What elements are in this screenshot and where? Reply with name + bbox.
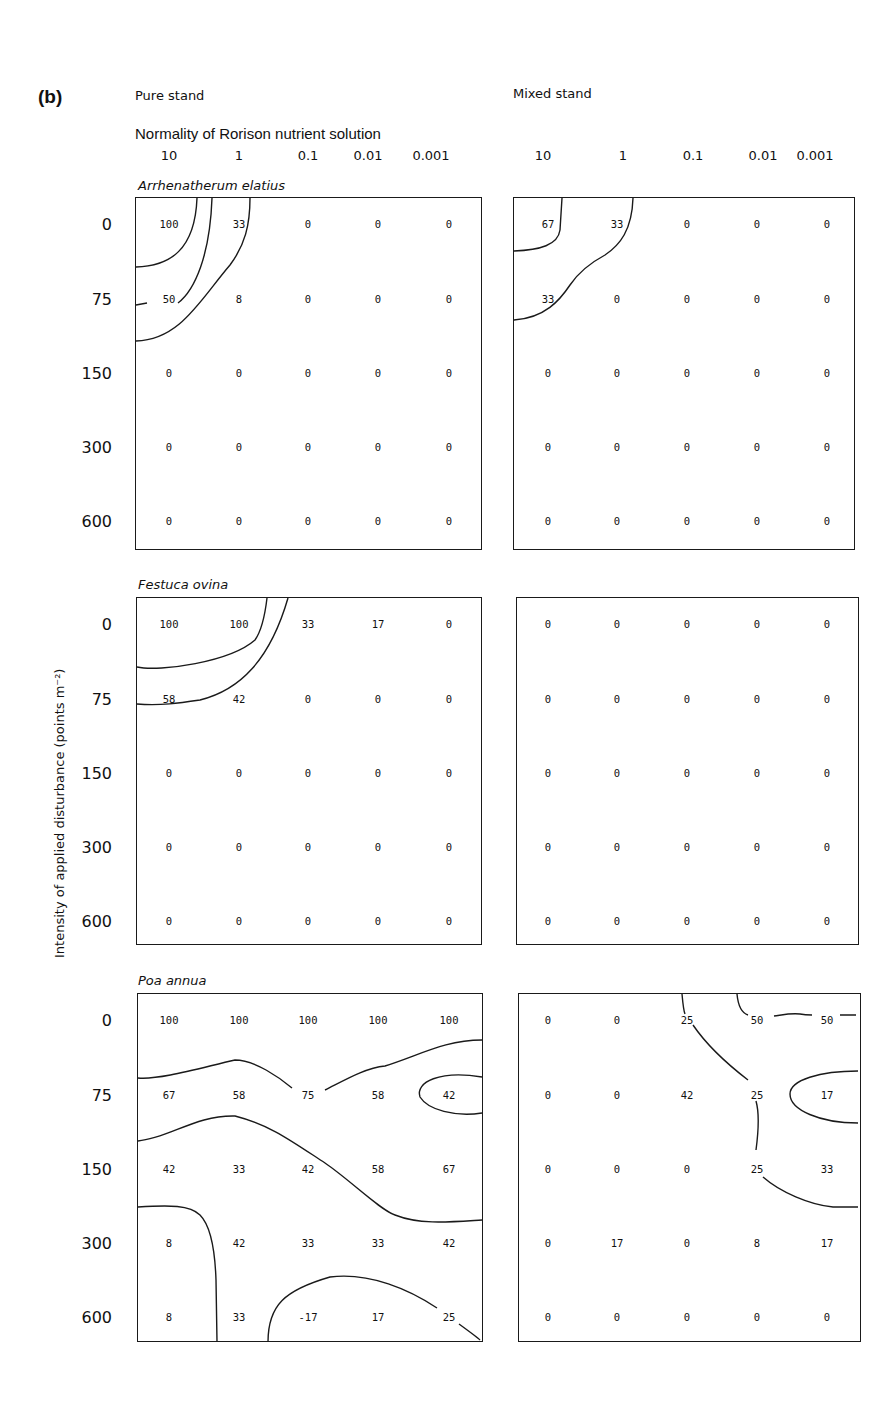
grid-value-pure: 0: [429, 693, 469, 705]
grid-value-pure: 100: [288, 1014, 328, 1026]
grid-value-pure: 0: [219, 515, 259, 527]
grid-value-mixed: 0: [667, 618, 707, 630]
grid-value-pure: 0: [288, 367, 328, 379]
grid-value-mixed: 0: [597, 1014, 637, 1026]
grid-value-pure: -17: [288, 1311, 328, 1323]
grid-value-mixed: 0: [737, 218, 777, 230]
grid-value-mixed: 0: [597, 841, 637, 853]
y-tick: 600: [62, 1308, 112, 1327]
grid-value-pure: 0: [429, 293, 469, 305]
grid-value-pure: 58: [358, 1163, 398, 1175]
grid-value-mixed: 0: [667, 1237, 707, 1249]
grid-value-pure: 100: [149, 218, 189, 230]
grid-value-mixed: 0: [737, 293, 777, 305]
grid-value-mixed: 0: [528, 1014, 568, 1026]
grid-value-mixed: 8: [737, 1237, 777, 1249]
grid-value-pure: 0: [358, 841, 398, 853]
grid-value-pure: 58: [149, 693, 189, 705]
grid-value-mixed: 67: [528, 218, 568, 230]
grid-value-mixed: 33: [807, 1163, 847, 1175]
grid-value-pure: 0: [358, 367, 398, 379]
grid-value-mixed: 0: [807, 367, 847, 379]
grid-value-mixed: 0: [597, 767, 637, 779]
grid-value-pure: 0: [149, 767, 189, 779]
grid-value-mixed: 0: [737, 1311, 777, 1323]
grid-value-mixed: 25: [737, 1089, 777, 1101]
y-tick: 0: [62, 1011, 112, 1030]
grid-value-mixed: 0: [667, 841, 707, 853]
grid-value-mixed: 0: [528, 1163, 568, 1175]
grid-value-pure: 0: [149, 515, 189, 527]
grid-value-mixed: 0: [528, 693, 568, 705]
grid-value-pure: 17: [358, 618, 398, 630]
grid-value-mixed: 0: [667, 767, 707, 779]
grid-value-mixed: 0: [667, 218, 707, 230]
grid-value-pure: 100: [219, 1014, 259, 1026]
grid-value-pure: 67: [429, 1163, 469, 1175]
grid-value-mixed: 0: [667, 515, 707, 527]
grid-value-mixed: 0: [737, 367, 777, 379]
grid-value-pure: 0: [288, 693, 328, 705]
grid-value-pure: 0: [429, 915, 469, 927]
grid-value-mixed: 50: [807, 1014, 847, 1026]
grid-value-mixed: 0: [597, 367, 637, 379]
grid-value-mixed: 0: [597, 1089, 637, 1101]
grid-value-mixed: 0: [667, 367, 707, 379]
grid-value-pure: 0: [149, 441, 189, 453]
grid-value-pure: 0: [219, 841, 259, 853]
grid-value-mixed: 0: [597, 618, 637, 630]
grid-value-mixed: 0: [737, 841, 777, 853]
grid-value-mixed: 0: [597, 441, 637, 453]
grid-value-mixed: 42: [667, 1089, 707, 1101]
grid-value-pure: 0: [288, 915, 328, 927]
grid-value-mixed: 0: [807, 441, 847, 453]
grid-value-mixed: 0: [667, 915, 707, 927]
grid-value-pure: 0: [149, 915, 189, 927]
grid-value-pure: 58: [358, 1089, 398, 1101]
grid-value-mixed: 0: [807, 841, 847, 853]
grid-value-mixed: 0: [528, 441, 568, 453]
grid-value-mixed: 0: [597, 1311, 637, 1323]
grid-value-pure: 33: [219, 1311, 259, 1323]
grid-value-mixed: 50: [737, 1014, 777, 1026]
grid-value-mixed: 0: [737, 441, 777, 453]
grid-value-mixed: 0: [807, 1311, 847, 1323]
grid-value-pure: 42: [429, 1089, 469, 1101]
grid-value-pure: 0: [149, 367, 189, 379]
grid-value-pure: 0: [219, 441, 259, 453]
grid-value-mixed: 0: [807, 515, 847, 527]
grid-value-mixed: 0: [597, 515, 637, 527]
grid-value-pure: 33: [288, 1237, 328, 1249]
grid-value-mixed: 0: [597, 915, 637, 927]
grid-value-pure: 0: [219, 915, 259, 927]
grid-value-pure: 0: [358, 218, 398, 230]
grid-value-mixed: 0: [528, 367, 568, 379]
grid-value-mixed: 17: [807, 1089, 847, 1101]
grid-value-pure: 42: [429, 1237, 469, 1249]
grid-value-pure: 50: [149, 293, 189, 305]
grid-value-pure: 100: [149, 618, 189, 630]
grid-value-mixed: 33: [528, 293, 568, 305]
grid-value-mixed: 0: [737, 618, 777, 630]
grid-value-pure: 0: [288, 218, 328, 230]
grid-value-pure: 0: [358, 441, 398, 453]
grid-value-pure: 33: [219, 218, 259, 230]
grid-value-pure: 33: [358, 1237, 398, 1249]
grid-value-mixed: 0: [528, 1311, 568, 1323]
grid-value-pure: 0: [219, 367, 259, 379]
y-tick: 300: [62, 1234, 112, 1253]
grid-value-pure: 0: [429, 515, 469, 527]
grid-value-pure: 17: [358, 1311, 398, 1323]
grid-value-mixed: 0: [807, 618, 847, 630]
grid-value-mixed: 0: [528, 1237, 568, 1249]
grid-value-pure: 67: [149, 1089, 189, 1101]
grid-value-pure: 8: [149, 1237, 189, 1249]
grid-value-pure: 42: [219, 693, 259, 705]
grid-value-pure: 0: [288, 841, 328, 853]
grid-value-pure: 0: [358, 293, 398, 305]
grid-value-mixed: 0: [528, 915, 568, 927]
y-tick: 150: [62, 364, 112, 383]
grid-value-mixed: 0: [597, 693, 637, 705]
grid-value-mixed: 0: [597, 293, 637, 305]
grid-value-mixed: 0: [528, 515, 568, 527]
